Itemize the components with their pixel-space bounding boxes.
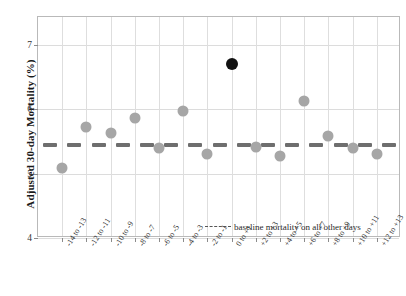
data-point xyxy=(202,149,213,160)
y-tick-mark xyxy=(34,109,38,110)
baseline-dash-segment xyxy=(164,143,178,147)
y-gridline xyxy=(38,45,399,46)
x-tick-mark xyxy=(86,238,87,242)
data-point xyxy=(154,142,165,153)
chart-figure: Adjusted 30-day Mortality (%) 4567 basel… xyxy=(0,0,406,296)
x-tick-mark xyxy=(207,238,208,242)
y-tick-mark xyxy=(34,174,38,175)
x-gridline xyxy=(232,17,233,236)
x-tick-mark xyxy=(159,238,160,242)
data-point xyxy=(57,163,68,174)
x-tick-mark xyxy=(111,238,112,242)
baseline-dash-segment xyxy=(285,143,299,147)
baseline-dash-segment xyxy=(43,143,57,147)
x-tick-mark xyxy=(304,238,305,242)
x-gridline xyxy=(207,17,208,236)
x-gridline xyxy=(280,17,281,236)
data-point xyxy=(299,95,310,106)
baseline-dash-segment xyxy=(140,143,154,147)
x-tick-mark xyxy=(328,238,329,242)
x-gridline xyxy=(135,17,136,236)
baseline-dash-segment xyxy=(261,143,275,147)
x-tick-mark xyxy=(183,238,184,242)
y-tick-label: 5 xyxy=(16,169,32,179)
baseline-dash-segment xyxy=(92,143,106,147)
baseline-dash-segment xyxy=(334,143,348,147)
x-tick-mark xyxy=(256,238,257,242)
x-tick-mark xyxy=(280,238,281,242)
data-point xyxy=(81,121,92,132)
x-tick-mark xyxy=(353,238,354,242)
x-gridline xyxy=(328,17,329,236)
data-point xyxy=(347,142,358,153)
y-gridline xyxy=(38,109,399,110)
plot-area: 4567 xyxy=(37,16,400,237)
data-point xyxy=(129,112,140,123)
baseline-dash-segment xyxy=(309,143,323,147)
x-gridline xyxy=(159,17,160,236)
baseline-dash-segment xyxy=(213,143,227,147)
data-point xyxy=(323,131,334,142)
y-tick-mark xyxy=(34,238,38,239)
x-gridline xyxy=(62,17,63,236)
x-gridline xyxy=(377,17,378,236)
baseline-dash-segment xyxy=(358,143,372,147)
x-gridline xyxy=(256,17,257,236)
y-tick-mark xyxy=(34,45,38,46)
data-point xyxy=(105,127,116,138)
data-point xyxy=(178,106,189,117)
y-gridline xyxy=(38,174,399,175)
baseline-dash-segment xyxy=(188,143,202,147)
data-point xyxy=(250,141,261,152)
x-tick-mark xyxy=(135,238,136,242)
baseline-dash-segment xyxy=(116,143,130,147)
y-axis-title: Adjusted 30-day Mortality (%) xyxy=(24,44,36,224)
x-gridline xyxy=(353,17,354,236)
x-tick-mark xyxy=(232,238,233,242)
baseline-dash-segment xyxy=(382,143,396,147)
baseline-dash-segment xyxy=(67,143,81,147)
y-tick-label: 4 xyxy=(16,233,32,243)
baseline-dash-segment xyxy=(237,143,251,147)
data-point-highlighted xyxy=(226,58,238,70)
x-tick-mark xyxy=(377,238,378,242)
x-gridline xyxy=(183,17,184,236)
data-point xyxy=(275,150,286,161)
data-point xyxy=(371,148,382,159)
x-gridline xyxy=(304,17,305,236)
x-tick-mark xyxy=(62,238,63,242)
y-tick-label: 7 xyxy=(16,40,32,50)
y-tick-label: 6 xyxy=(16,104,32,114)
